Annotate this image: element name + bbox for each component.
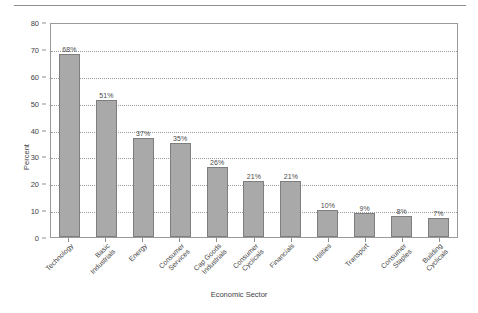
bar[interactable] xyxy=(354,213,375,237)
y-axis-tick-label: 10 xyxy=(31,207,39,216)
bar-value-label: 7% xyxy=(433,210,443,217)
bar-value-label: 9% xyxy=(360,205,370,212)
x-axis-label-line: Technology xyxy=(44,242,75,273)
y-axis-tick-mark xyxy=(42,103,46,104)
bar-slot: 51% xyxy=(88,24,125,237)
bars-layer: 68%51%37%35%26%21%21%10%9%8%7% xyxy=(51,24,457,237)
y-axis-tick-label: 40 xyxy=(31,126,39,135)
bar-value-label: 26% xyxy=(210,159,224,166)
bar-slot: 35% xyxy=(162,24,199,237)
header-divider xyxy=(14,5,466,6)
y-axis-tick-mark xyxy=(42,130,46,131)
bar[interactable] xyxy=(133,138,154,237)
bar[interactable] xyxy=(207,167,228,237)
y-axis-ticks: 01020304050607080 xyxy=(0,23,46,238)
bar[interactable] xyxy=(317,210,338,237)
x-axis-label: ConsumerServices xyxy=(157,242,191,276)
y-axis-tick-mark xyxy=(42,157,46,158)
bar-slot: 21% xyxy=(236,24,273,237)
bar-value-label: 68% xyxy=(62,46,76,53)
bar-value-label: 35% xyxy=(173,135,187,142)
y-axis-tick-label: 20 xyxy=(31,180,39,189)
bar[interactable] xyxy=(59,54,80,237)
y-axis-tick-label: 30 xyxy=(31,153,39,162)
bar-value-label: 8% xyxy=(396,208,406,215)
x-axis-label: Energy xyxy=(127,242,148,263)
bar-slot: 68% xyxy=(51,24,88,237)
x-axis-label: BuildingCyclicals xyxy=(420,242,451,273)
x-axis-label-line: Energy xyxy=(127,242,148,263)
bar-value-label: 21% xyxy=(284,173,298,180)
bar[interactable] xyxy=(170,143,191,237)
x-axis-label: Utilities xyxy=(312,242,334,264)
bar-value-label: 21% xyxy=(247,173,261,180)
bar[interactable] xyxy=(96,100,117,237)
x-axis-title: Economic Sector xyxy=(0,290,478,299)
x-axis-label: ConsumerStaples xyxy=(380,242,414,276)
bar-value-label: 37% xyxy=(136,130,150,137)
bar-slot: 26% xyxy=(199,24,236,237)
y-axis-tick-label: 0 xyxy=(35,234,39,243)
x-axis-label: BasicIndustrials xyxy=(83,242,117,276)
x-axis-label: Transport xyxy=(344,242,371,269)
bar-value-label: 10% xyxy=(321,202,335,209)
x-axis-label: Technology xyxy=(44,242,75,273)
plot-area: 68%51%37%35%26%21%21%10%9%8%7% xyxy=(50,23,458,238)
bar[interactable] xyxy=(391,216,412,238)
x-axis-label-line: Transport xyxy=(344,242,371,269)
bar[interactable] xyxy=(428,218,449,237)
x-axis-label: Cap GoodsIndustrials xyxy=(192,242,228,278)
y-axis-tick-mark xyxy=(42,184,46,185)
bar-slot: 9% xyxy=(346,24,383,237)
bar[interactable] xyxy=(280,181,301,237)
y-axis-tick-label: 80 xyxy=(31,19,39,28)
bar-slot: 37% xyxy=(125,24,162,237)
x-axis-label: Financials xyxy=(268,242,296,270)
y-axis-tick-label: 60 xyxy=(31,72,39,81)
bar-value-label: 51% xyxy=(99,92,113,99)
y-axis-tick-mark xyxy=(42,49,46,50)
y-axis-tick-mark xyxy=(42,238,46,239)
y-axis-tick-label: 50 xyxy=(31,99,39,108)
x-axis-label: ConsumerCyclicals xyxy=(231,242,265,276)
bar[interactable] xyxy=(243,181,264,237)
bar-slot: 7% xyxy=(420,24,457,237)
y-axis-tick-mark xyxy=(42,76,46,77)
bar-chart-figure: Percent 01020304050607080 68%51%37%35%26… xyxy=(0,0,478,313)
x-axis-label-line: Utilities xyxy=(312,242,334,264)
x-axis-label-line: Financials xyxy=(268,242,296,270)
bar-slot: 8% xyxy=(383,24,420,237)
bar-slot: 21% xyxy=(272,24,309,237)
y-axis-tick-mark xyxy=(42,211,46,212)
y-axis-tick-mark xyxy=(42,23,46,24)
y-axis-tick-label: 70 xyxy=(31,45,39,54)
bar-slot: 10% xyxy=(309,24,346,237)
